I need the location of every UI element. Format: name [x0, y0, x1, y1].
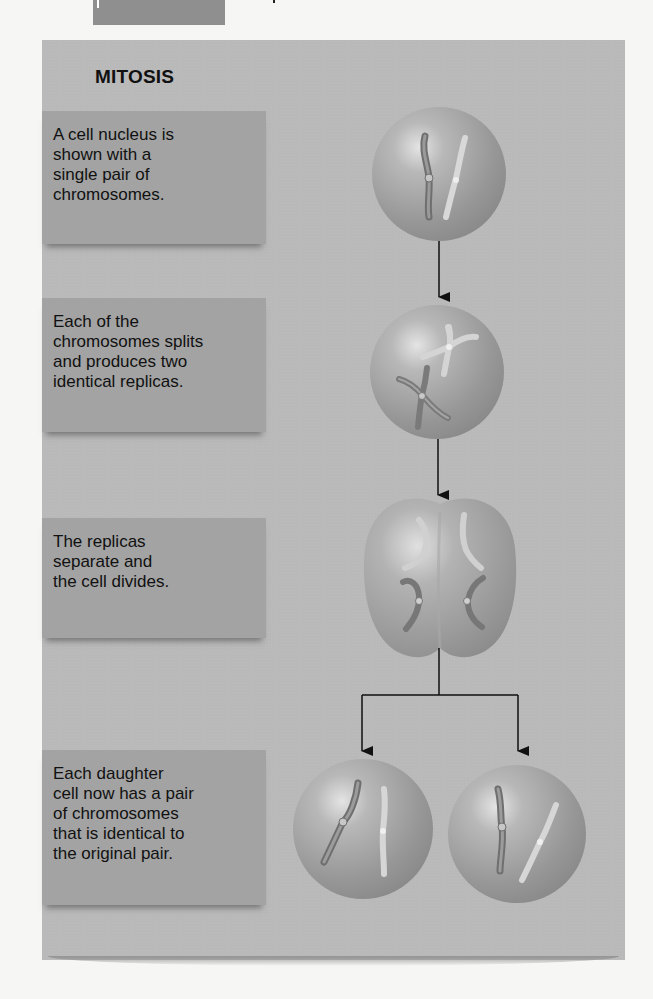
daughter-cell-right — [448, 765, 586, 903]
mitosis-illustration — [0, 0, 653, 999]
cell-2-replicated — [370, 305, 504, 439]
cell-3-dividing — [364, 498, 516, 657]
cell-1-nucleus — [372, 107, 506, 241]
branch-arrows — [362, 648, 518, 751]
daughter-cell-left — [293, 759, 433, 899]
